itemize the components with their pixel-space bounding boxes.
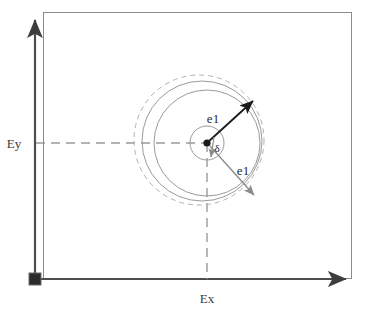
vector-label-upper: e1	[207, 111, 219, 126]
y-axis-label: Ey	[7, 136, 22, 151]
plot-frame	[44, 13, 352, 279]
x-axis-label: Ex	[200, 291, 215, 306]
origin-marker	[29, 273, 41, 285]
delta-angle-label: δ	[214, 142, 219, 154]
outer-dashed-circle	[134, 75, 264, 205]
diagram-canvas: Ey Ex e1 e1 δ	[0, 0, 366, 317]
vector-diagram: Ey Ex e1 e1 δ	[0, 0, 366, 317]
vector-label-lower: e1	[237, 163, 249, 178]
